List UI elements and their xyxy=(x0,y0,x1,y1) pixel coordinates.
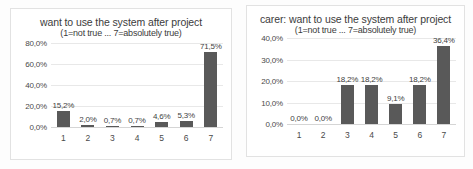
bar-value-label: 0,0% xyxy=(314,114,331,123)
x-axis-tick-label: 1 xyxy=(287,130,311,140)
bar-value-label: 18,2% xyxy=(409,75,431,84)
bar-slot[interactable]: 0,7% xyxy=(125,43,150,127)
bar[interactable] xyxy=(106,126,119,127)
gridline xyxy=(51,127,223,128)
y-axis-tick-label: 20,0% xyxy=(25,102,47,111)
bar-value-label: 5,3% xyxy=(177,111,194,120)
bar-slot[interactable]: 4,6% xyxy=(149,43,174,127)
x-axis-tick-label: 1 xyxy=(51,133,76,143)
bar-value-label: 4,6% xyxy=(153,112,170,121)
figure-canvas: want to use the system after project (1=… xyxy=(0,0,473,169)
x-axis-tick-label: 2 xyxy=(76,133,101,143)
bar[interactable] xyxy=(413,85,426,124)
bar-slot[interactable]: 2,0% xyxy=(76,43,101,127)
chart-title-right: carer: want to use the system after proj… xyxy=(247,6,464,25)
bar-series-right: 0,0%0,0%18,2%18,2%9,1%18,2%36,4% xyxy=(287,38,456,124)
bar-value-label: 71,5% xyxy=(200,42,222,51)
y-axis-tick-label: 40,0% xyxy=(25,81,47,90)
bar[interactable] xyxy=(437,46,450,124)
bar[interactable] xyxy=(365,85,378,124)
y-axis-tick-label: 60,0% xyxy=(25,60,47,69)
bar[interactable] xyxy=(204,52,217,127)
x-axis-tick-label: 7 xyxy=(432,130,456,140)
bar-value-label: 18,2% xyxy=(337,75,359,84)
bar[interactable] xyxy=(131,126,144,127)
y-axis-tick-label: 20,0% xyxy=(261,77,283,86)
bar-value-label: 0,7% xyxy=(128,116,145,125)
bar-slot[interactable]: 18,2% xyxy=(335,38,359,124)
plot-wrap-left: 0,0%20,0%40,0%60,0%80,0% 15,2%2,0%0,7%0,… xyxy=(11,43,231,161)
x-axis-tick-label: 6 xyxy=(174,133,199,143)
bar[interactable] xyxy=(81,125,94,127)
bar[interactable] xyxy=(341,85,354,124)
bar[interactable] xyxy=(57,111,70,127)
bar-slot[interactable]: 9,1% xyxy=(384,38,408,124)
x-axis-tick-label: 6 xyxy=(408,130,432,140)
plot-area-left: 15,2%2,0%0,7%0,7%4,6%5,3%71,5% xyxy=(51,43,223,161)
x-axis-tick-label: 3 xyxy=(335,130,359,140)
bar-slot[interactable]: 71,5% xyxy=(198,43,223,127)
chart-subtitle-left: (1=not true ... 7=absolutely true) xyxy=(11,28,231,39)
chart-title-left: want to use the system after project xyxy=(11,9,231,28)
y-axis-tick-label: 0,0% xyxy=(266,120,283,129)
y-axis-tick-label: 30,0% xyxy=(261,55,283,64)
bar-value-label: 36,4% xyxy=(433,36,455,45)
bar-slot[interactable]: 15,2% xyxy=(51,43,76,127)
bar-slot[interactable]: 0,7% xyxy=(100,43,125,127)
bar-slot[interactable]: 18,2% xyxy=(408,38,432,124)
y-axis-tick-label: 40,0% xyxy=(261,34,283,43)
x-axis-left: 1234567 xyxy=(51,133,223,143)
x-axis-right: 1234567 xyxy=(287,130,456,140)
x-axis-tick-label: 3 xyxy=(100,133,125,143)
bar-value-label: 9,1% xyxy=(387,94,404,103)
x-axis-tick-label: 7 xyxy=(198,133,223,143)
chart-panel-left: want to use the system after project (1=… xyxy=(10,8,232,160)
bar-slot[interactable]: 18,2% xyxy=(359,38,383,124)
plot-wrap-right: 0,0%10,0%20,0%30,0%40,0% 0,0%0,0%18,2%18… xyxy=(247,38,464,158)
bar-series-left: 15,2%2,0%0,7%0,7%4,6%5,3%71,5% xyxy=(51,43,223,127)
x-axis-tick-label: 5 xyxy=(384,130,408,140)
bar-value-label: 0,0% xyxy=(290,114,307,123)
chart-panel-right: carer: want to use the system after proj… xyxy=(246,5,465,157)
bar-slot[interactable]: 0,0% xyxy=(287,38,311,124)
bar-value-label: 2,0% xyxy=(79,115,96,124)
x-axis-tick-label: 5 xyxy=(149,133,174,143)
y-axis-tick-label: 0,0% xyxy=(30,123,47,132)
y-axis-right: 0,0%10,0%20,0%30,0%40,0% xyxy=(247,38,287,158)
bar-value-label: 0,7% xyxy=(104,116,121,125)
y-axis-tick-label: 80,0% xyxy=(25,39,47,48)
x-axis-tick-label: 4 xyxy=(125,133,150,143)
plot-area-right: 0,0%0,0%18,2%18,2%9,1%18,2%36,4% xyxy=(287,38,456,158)
bar-slot[interactable]: 5,3% xyxy=(174,43,199,127)
y-axis-tick-label: 10,0% xyxy=(261,98,283,107)
x-axis-tick-label: 2 xyxy=(311,130,335,140)
bar[interactable] xyxy=(389,104,402,124)
bar[interactable] xyxy=(155,122,168,127)
bar-slot[interactable]: 0,0% xyxy=(311,38,335,124)
bar-slot[interactable]: 36,4% xyxy=(432,38,456,124)
bar[interactable] xyxy=(180,121,193,127)
y-axis-left: 0,0%20,0%40,0%60,0%80,0% xyxy=(11,43,51,161)
bar-value-label: 15,2% xyxy=(52,101,74,110)
gridline xyxy=(287,124,456,125)
bar-value-label: 18,2% xyxy=(361,75,383,84)
x-axis-tick-label: 4 xyxy=(359,130,383,140)
